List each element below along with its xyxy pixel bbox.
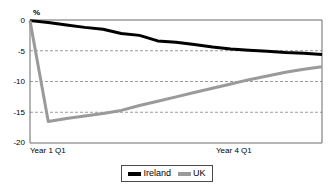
legend-item-uk: UK xyxy=(178,169,206,178)
legend-line-swatch-ireland xyxy=(128,172,141,176)
line-chart: % 0 -5 -10 -15 -20 Year 1 Q1 Year 4 Q1 I… xyxy=(0,0,332,192)
plot-area xyxy=(0,0,332,192)
legend-item-ireland: Ireland xyxy=(128,169,171,178)
legend-line-swatch-uk xyxy=(178,172,191,176)
series-line-ireland xyxy=(30,21,322,55)
series-line-uk xyxy=(30,21,322,122)
data-series xyxy=(30,21,322,122)
legend-label-uk: UK xyxy=(193,169,206,178)
chart-legend: Ireland UK xyxy=(121,165,213,182)
legend-label-ireland: Ireland xyxy=(143,169,171,178)
gridlines xyxy=(30,51,322,113)
